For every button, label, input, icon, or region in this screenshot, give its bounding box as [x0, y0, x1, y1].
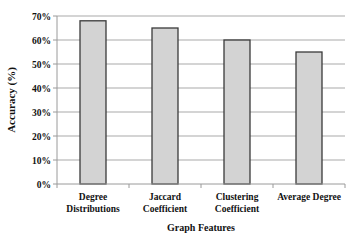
bar	[152, 28, 178, 184]
x-tick-labels: DegreeDistributionsJaccardCoefficientClu…	[66, 192, 341, 214]
x-tick-label: Jaccard	[149, 192, 182, 202]
x-tick-label: Distributions	[66, 204, 120, 214]
x-axis-label: Graph Features	[167, 222, 235, 233]
y-tick-labels: 0%10%20%30%40%50%60%70%	[32, 12, 51, 190]
bar	[224, 40, 250, 184]
y-tick-label: 30%	[32, 108, 51, 118]
bar	[80, 21, 106, 184]
x-tick-label: Coefficient	[215, 204, 260, 214]
y-tick-label: 0%	[37, 180, 51, 190]
y-tick-label: 40%	[32, 84, 51, 94]
x-tick-label: Clustering	[216, 192, 259, 202]
y-tick-label: 60%	[32, 36, 51, 46]
bar	[296, 52, 322, 184]
bar-chart: 0%10%20%30%40%50%60%70% DegreeDistributi…	[0, 0, 359, 246]
x-tick-label: Average Degree	[277, 192, 341, 202]
y-tick-label: 20%	[32, 132, 51, 142]
y-tick-label: 50%	[32, 60, 51, 70]
y-tick-label: 10%	[32, 156, 51, 166]
y-tick-label: 70%	[32, 12, 51, 22]
y-axis-label: Accuracy (%)	[5, 67, 18, 133]
x-tick-label: Coefficient	[143, 204, 188, 214]
x-tick-label: Degree	[79, 192, 107, 202]
